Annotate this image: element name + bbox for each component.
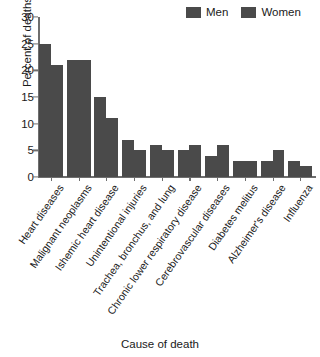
x-tick-mark [51, 177, 52, 181]
x-tick-mark [189, 177, 190, 181]
x-tick-mark [273, 177, 274, 181]
y-tick-mark [33, 70, 38, 71]
y-tick-mark [33, 16, 38, 17]
x-axis-title: Cause of death [0, 338, 320, 350]
y-tick-mark [33, 96, 38, 97]
y-tick-mark [33, 123, 38, 124]
x-tick-mark [217, 177, 218, 181]
x-tick-mark [300, 177, 301, 181]
x-tick-mark [79, 177, 80, 181]
x-tick-mark [134, 177, 135, 181]
x-tick-mark [162, 177, 163, 181]
y-tick-mark [33, 43, 38, 44]
bar-chart: Men Women Percent of deaths 051015202530… [0, 0, 320, 357]
x-tick-mark [245, 177, 246, 181]
y-tick-mark [33, 176, 38, 177]
x-tick-mark [106, 177, 107, 181]
y-tick-mark [33, 150, 38, 151]
x-axis-labels: Heart diseasesMalignant neoplasmsIshemic… [0, 0, 320, 357]
